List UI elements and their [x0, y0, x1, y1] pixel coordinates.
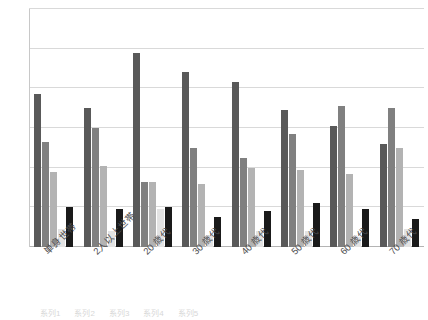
bar [313, 203, 320, 247]
bar [84, 108, 91, 247]
bar [190, 148, 197, 247]
legend: 系列1系列2系列3系列4系列5 [40, 307, 290, 320]
bars-layer [29, 9, 424, 247]
bar [338, 106, 345, 247]
bar [141, 182, 148, 247]
legend-item: 系列2 [74, 309, 94, 318]
bar [330, 126, 337, 247]
bar [34, 94, 41, 247]
bar-group [325, 9, 374, 247]
legend-item: 系列3 [109, 309, 129, 318]
bar [42, 142, 49, 247]
bar [240, 158, 247, 247]
bar [232, 82, 239, 247]
legend-item: 系列4 [143, 309, 163, 318]
bar [281, 110, 288, 247]
bar-group [78, 9, 127, 247]
bar-group [276, 9, 325, 247]
bar-group [177, 9, 226, 247]
bar-group [227, 9, 276, 247]
plot-area: 0102030405060 [29, 9, 424, 247]
bar [289, 134, 296, 247]
bar [92, 128, 99, 247]
legend-item: 系列1 [40, 309, 60, 318]
bar [388, 108, 395, 247]
bar-chart: 0102030405060 単身世帯2人以上世帯20 歳代30 歳代40 歳代5… [0, 0, 428, 320]
bar-group [29, 9, 78, 247]
bar [396, 148, 403, 247]
x-axis-labels: 単身世帯2人以上世帯20 歳代30 歳代40 歳代50 歳代60 歳代70 歳代 [29, 249, 424, 311]
bar [182, 72, 189, 247]
bar-group [128, 9, 177, 247]
bar [380, 144, 387, 247]
legend-item: 系列5 [178, 309, 198, 318]
bar-group [375, 9, 424, 247]
